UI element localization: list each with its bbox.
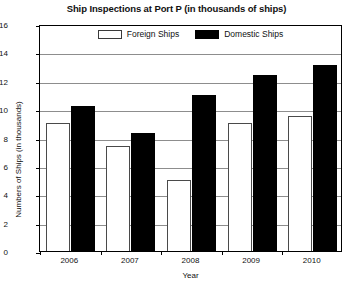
y-tick-label: 6 [0, 162, 8, 171]
legend-item-domestic: Domestic Ships [195, 29, 283, 39]
x-tick-mark [282, 251, 283, 255]
x-axis-label: Year [39, 271, 342, 280]
legend-swatch-foreign [98, 30, 122, 39]
y-tick-label: 8 [0, 134, 8, 143]
x-tick-label: 2007 [121, 256, 139, 265]
legend-swatch-domestic [195, 30, 219, 39]
y-tick-label: 4 [0, 191, 8, 200]
chart-title: Ship Inspections at Port P (in thousands… [0, 3, 353, 14]
x-tick-label: 2008 [182, 256, 200, 265]
legend-label-foreign: Foreign Ships [127, 29, 179, 39]
y-tick-label: 14 [0, 49, 8, 58]
x-tick-label: 2010 [303, 256, 321, 265]
y-tick-label: 12 [0, 77, 8, 86]
x-tick-label: 2009 [242, 256, 260, 265]
x-tick-mark [40, 251, 41, 255]
y-tick-label: 0 [0, 248, 8, 257]
bar-chart: Ship Inspections at Port P (in thousands… [0, 0, 353, 293]
legend-label-domestic: Domestic Ships [224, 29, 283, 39]
chart-legend: Foreign Ships Domestic Ships [39, 29, 342, 39]
y-tick-label: 16 [0, 21, 8, 30]
x-tick-label: 2006 [60, 256, 78, 265]
x-tick-mark [222, 251, 223, 255]
plot-area [39, 25, 342, 252]
y-axis-label: Numbers of Ships (in thousands) [14, 80, 23, 240]
x-tick-mark [101, 251, 102, 255]
x-tick-mark [161, 251, 162, 255]
x-axis-ticks [40, 26, 341, 251]
y-tick-label: 2 [0, 219, 8, 228]
y-tick-label: 10 [0, 106, 8, 115]
legend-item-foreign: Foreign Ships [98, 29, 179, 39]
